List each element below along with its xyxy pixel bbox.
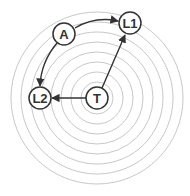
- node-t-label: T: [93, 91, 101, 106]
- node-a-label: A: [59, 27, 69, 42]
- node-a: A: [53, 23, 75, 45]
- node-l1-label: L1: [122, 16, 137, 31]
- node-t: T: [86, 87, 108, 109]
- diagram-canvas: T A L1 L2: [0, 0, 190, 196]
- node-l2-label: L2: [32, 91, 47, 106]
- node-l2: L2: [29, 87, 51, 109]
- diagram-svg: T A L1 L2: [0, 0, 190, 196]
- node-l1: L1: [119, 12, 141, 34]
